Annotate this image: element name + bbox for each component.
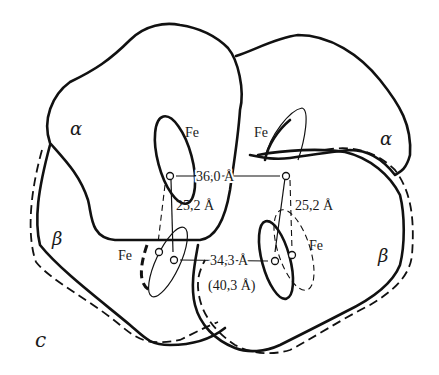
panel-label: c [35,328,46,352]
alpha-right-label: α [380,128,392,149]
fe-label-bottom-right: Fe [309,238,323,253]
fe-label-bottom-left: Fe [118,248,132,263]
beta-left-label: β [51,228,62,249]
fe-atom-bottom-right [272,258,279,265]
fe-atom-bottom-right-deoxy [289,252,296,259]
distance-left-vertical: 25,2 Å [176,198,215,213]
fe-atom-top-left [167,173,174,180]
distance-bottom-horizontal: 34,3 Å [210,253,249,268]
fe-atom-bottom-left-deoxy [156,249,163,256]
left-vertical-dashed-line [158,185,165,243]
hemoglobin-subunit-diagram: α α β β c Fe Fe Fe Fe 36,0 Å 25,2 Å 25,2… [0,0,439,375]
heme-bottom-left-outline [141,222,195,301]
beta-right-label: β [377,245,388,266]
distance-bottom-horizontal-alt: (40,3 Å) [208,278,256,294]
fe-atom-top-right [283,173,290,180]
diagram-canvas: α α β β c Fe Fe Fe Fe 36,0 Å 25,2 Å 25,2… [0,0,439,375]
alpha-left-label: α [70,118,82,139]
fe-atom-bottom-left [171,257,178,264]
fe-label-top-left: Fe [185,125,199,140]
distance-right-vertical: 25,2 Å [295,198,334,213]
fe-label-top-right: Fe [254,125,268,140]
right-vertical-dashed-line [290,180,292,250]
distance-top-horizontal: 36,0 Å [196,169,235,184]
